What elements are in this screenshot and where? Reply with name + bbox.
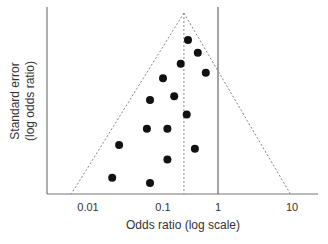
- data-point-14: [108, 174, 116, 182]
- funnel-left-boundary: [71, 13, 184, 194]
- x-tick-label: 1: [215, 201, 221, 213]
- x-tick-label: 0.01: [77, 201, 98, 213]
- funnel-right-boundary: [184, 13, 290, 194]
- data-point-9: [143, 125, 151, 133]
- data-points: [108, 36, 210, 187]
- data-point-15: [146, 179, 154, 187]
- data-point-8: [183, 110, 191, 118]
- y-axis-title-line2: (log odds ratio): [23, 61, 37, 141]
- x-tick-label: 0.1: [155, 201, 170, 213]
- data-point-10: [163, 125, 171, 133]
- data-point-5: [159, 74, 167, 82]
- data-point-13: [163, 156, 171, 164]
- data-point-3: [177, 60, 185, 68]
- funnel-plot: 0.010.1110 Odds ratio (log scale) Standa…: [0, 0, 328, 244]
- data-point-12: [191, 145, 199, 153]
- data-point-1: [184, 36, 192, 44]
- data-point-6: [170, 92, 178, 100]
- data-point-4: [202, 69, 210, 77]
- y-axis-title-line1: Standard error: [8, 62, 22, 139]
- data-point-7: [146, 96, 154, 104]
- x-axis-title: Odds ratio (log scale): [126, 218, 240, 232]
- data-point-2: [194, 49, 202, 57]
- x-tick-labels: 0.010.1110: [77, 201, 298, 213]
- x-tick-label: 10: [286, 201, 298, 213]
- data-point-11: [115, 141, 123, 149]
